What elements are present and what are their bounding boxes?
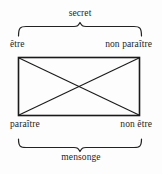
label-secret: secret [69, 9, 92, 19]
top-brace [19, 23, 142, 37]
label-mensonge: mensonge [61, 153, 100, 163]
bottom-brace [19, 139, 142, 152]
label-non-paraitre: non paraître [105, 40, 152, 50]
diagram-graphics [0, 0, 162, 174]
semiotic-square-figure: secret être non paraître paraître non êt… [0, 0, 162, 174]
label-non-etre: non être [120, 120, 152, 130]
label-etre: être [10, 40, 25, 50]
label-paraitre: paraître [10, 120, 40, 130]
